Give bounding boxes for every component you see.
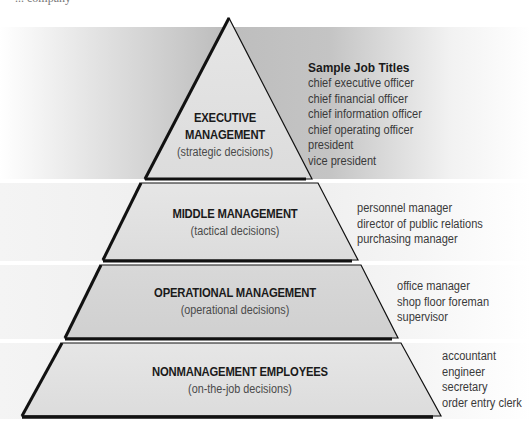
job-title: shop floor foreman [397, 295, 489, 311]
job-title: engineer [442, 365, 522, 381]
job-title: director of public relations [357, 217, 483, 233]
tier-middle-title: MIDDLE MANAGEMENT [141, 206, 330, 223]
sample-job-titles-heading: Sample Job Titles [308, 59, 422, 76]
job-title: order entry clerk [442, 396, 522, 412]
job-title: chief operating officer [308, 123, 422, 139]
tier-executive-title-2: MANAGEMENT [158, 127, 293, 144]
operational-job-titles: office manager shop floor foreman superv… [397, 279, 489, 326]
job-title: president [308, 138, 422, 154]
tier-nonmanagement-label: NONMANAGEMENT EMPLOYEES (on-the-job deci… [120, 364, 360, 397]
tier-middle-label: MIDDLE MANAGEMENT (tactical decisions) [130, 206, 340, 239]
tier-executive-label: EXECUTIVE MANAGEMENT (strategic decision… [150, 110, 300, 160]
job-title: office manager [397, 279, 489, 295]
job-title: vice president [308, 154, 422, 170]
job-title: supervisor [397, 310, 489, 326]
job-title: personnel manager [357, 201, 483, 217]
tier-executive-title-1: EXECUTIVE [158, 110, 293, 127]
middle-job-titles: personnel manager director of public rel… [357, 201, 483, 248]
pyramid-diagram: ... company [0, 0, 531, 441]
tier-operational-subtitle: (operational decisions) [132, 302, 339, 318]
tier-middle-subtitle: (tactical decisions) [141, 223, 330, 239]
tier-executive-subtitle: (strategic decisions) [158, 144, 293, 160]
nonmanagement-job-titles: accountant engineer secretary order entr… [442, 349, 522, 411]
executive-job-titles: Sample Job Titles chief executive office… [308, 59, 422, 169]
tier-nonmanagement-title: NONMANAGEMENT EMPLOYEES [132, 364, 348, 381]
job-title: accountant [442, 349, 522, 365]
cropped-caption: ... company [15, 0, 71, 6]
tier-nonmanagement-subtitle: (on-the-job decisions) [132, 381, 348, 397]
job-title: chief executive officer [308, 76, 422, 92]
tier-operational-title: OPERATIONAL MANAGEMENT [132, 285, 339, 302]
tier-operational-label: OPERATIONAL MANAGEMENT (operational deci… [120, 285, 350, 318]
job-title: chief information officer [308, 107, 422, 123]
job-title: purchasing manager [357, 232, 483, 248]
job-title: chief financial officer [308, 92, 422, 108]
job-title: secretary [442, 380, 522, 396]
